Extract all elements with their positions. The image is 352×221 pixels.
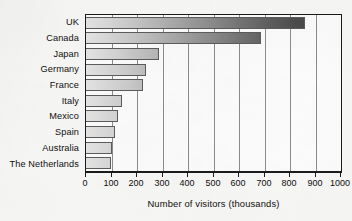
category-label-spain: Spain xyxy=(0,125,82,141)
value-axis-tick-label: 400 xyxy=(179,177,194,190)
bar-france xyxy=(86,79,143,91)
category-label-mexico: Mexico xyxy=(0,109,82,125)
bar-australia xyxy=(86,142,112,154)
category-label-italy: Italy xyxy=(0,94,82,110)
bar-row xyxy=(86,109,341,125)
value-axis-tick-label: 200 xyxy=(128,177,143,190)
value-axis-tick-label: 800 xyxy=(281,177,296,190)
value-axis-tick-label: 0 xyxy=(82,177,87,190)
category-label-australia: Australia xyxy=(0,141,82,157)
bar-row xyxy=(86,15,341,31)
category-label-japan: Japan xyxy=(0,46,82,62)
bars-layer xyxy=(86,15,341,171)
value-axis-tick-label: 300 xyxy=(154,177,169,190)
category-label-uk: UK xyxy=(0,15,82,31)
bar-row xyxy=(86,124,341,140)
bar-uk xyxy=(86,17,305,29)
bar-row xyxy=(86,140,341,156)
value-axis-tick-label: 700 xyxy=(256,177,271,190)
value-axis-tick-label: 100 xyxy=(103,177,118,190)
category-label-germany: Germany xyxy=(0,62,82,78)
bar-spain xyxy=(86,126,115,138)
bar-italy xyxy=(86,95,122,107)
category-axis: UK Canada Japan Germany France Italy Mex… xyxy=(0,15,82,172)
value-axis-tick-label: 500 xyxy=(205,177,220,190)
bar-row xyxy=(86,93,341,109)
value-axis-title: Number of visitors (thousands) xyxy=(85,198,342,209)
bar-row xyxy=(86,62,341,78)
value-axis-tick-labels: 01002003004005006007008009001000 xyxy=(85,177,342,190)
bar-row xyxy=(86,77,341,93)
bar-the-netherlands xyxy=(86,157,111,169)
bar-row xyxy=(86,46,341,62)
plot-area xyxy=(85,14,342,173)
bar-row xyxy=(86,31,341,47)
bar-chart-figure: UK Canada Japan Germany France Italy Mex… xyxy=(0,0,352,221)
bar-canada xyxy=(86,32,261,44)
bar-row xyxy=(86,155,341,171)
value-axis-tick-label: 900 xyxy=(307,177,322,190)
bar-germany xyxy=(86,64,146,76)
bar-japan xyxy=(86,48,159,60)
value-axis-tick-label: 600 xyxy=(230,177,245,190)
value-axis-tick-label: 1000 xyxy=(330,177,350,190)
category-label-canada: Canada xyxy=(0,31,82,47)
category-label-france: France xyxy=(0,78,82,94)
category-label-the-netherlands: The Netherlands xyxy=(0,156,82,172)
bar-mexico xyxy=(86,110,118,122)
